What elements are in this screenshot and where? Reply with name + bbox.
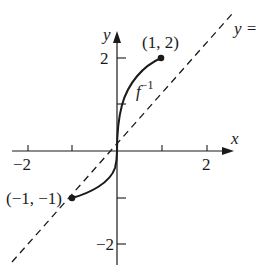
y-tick-label-pos2: 2	[100, 49, 109, 68]
identity-line	[12, 14, 232, 262]
inverse-function-diagram: y x −2 2 2 −2 (1, 2) (−1, −1) f−1 y =	[0, 0, 256, 271]
y-axis-label: y	[101, 25, 111, 44]
curve-label-superscript: −1	[141, 78, 154, 92]
x-axis-label: x	[230, 129, 239, 148]
identity-line-label: y =	[232, 19, 256, 38]
y-tick-label-neg2: −2	[96, 235, 114, 254]
point-neg1-neg1-marker	[69, 195, 76, 202]
point-1-2-marker	[158, 55, 165, 62]
x-tick-label-pos2: 2	[202, 155, 211, 174]
point-label-1-2: (1, 2)	[142, 33, 179, 52]
x-axis-arrow-icon	[222, 147, 234, 155]
y-axis-arrow-icon	[113, 31, 121, 43]
curve-label: f−1	[136, 78, 154, 101]
point-label-neg1-neg1: (−1, −1)	[6, 189, 62, 208]
x-tick-label-neg2: −2	[13, 155, 31, 174]
